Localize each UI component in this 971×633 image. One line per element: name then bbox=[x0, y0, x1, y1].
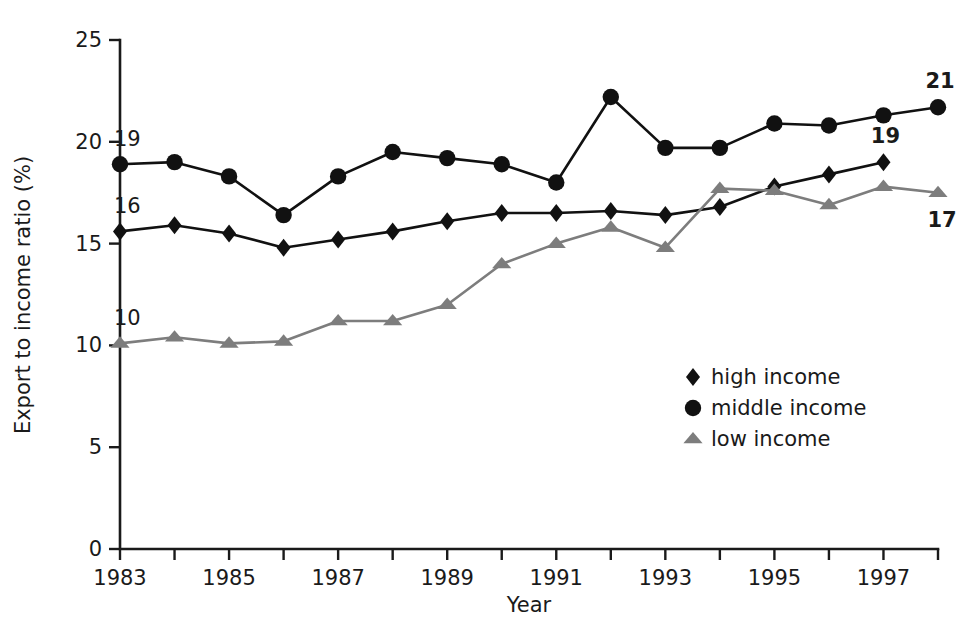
start-value-label-high-income: 16 bbox=[114, 194, 141, 218]
series-line-low-income bbox=[120, 187, 938, 344]
x-axis-title: Year bbox=[506, 593, 552, 617]
series-marker-middle-income bbox=[603, 89, 619, 105]
series-marker-low-income bbox=[710, 182, 729, 193]
x-axis-ticks: 19831985198719891991199319951997 bbox=[93, 549, 938, 590]
axis-frame bbox=[120, 40, 938, 549]
legend-marker-low-income bbox=[683, 432, 702, 443]
y-axis-title: Export to income ratio (%) bbox=[11, 156, 35, 434]
series-marker-high-income bbox=[331, 231, 345, 249]
series-marker-middle-income bbox=[275, 207, 291, 223]
y-tick-label: 5 bbox=[89, 435, 102, 459]
end-value-label-middle-income: 21 bbox=[925, 69, 954, 93]
y-tick-label: 15 bbox=[75, 232, 102, 256]
series-marker-high-income bbox=[604, 202, 618, 220]
x-tick-label: 1993 bbox=[639, 566, 692, 590]
series-marker-high-income bbox=[549, 204, 563, 222]
series-marker-high-income bbox=[495, 204, 509, 222]
series-marker-middle-income bbox=[166, 154, 182, 170]
y-axis-ticks: 0510152025 bbox=[75, 28, 120, 561]
chart-axes bbox=[120, 40, 938, 549]
series-marker-middle-income bbox=[930, 99, 946, 115]
series-marker-middle-income bbox=[439, 150, 455, 166]
series-marker-low-income bbox=[874, 180, 893, 191]
series-marker-middle-income bbox=[712, 140, 728, 156]
chart-container: 0510152025 19831985198719891991199319951… bbox=[0, 0, 971, 633]
y-tick-label: 25 bbox=[75, 28, 102, 52]
y-tick-label: 0 bbox=[89, 537, 102, 561]
start-value-label-middle-income: 19 bbox=[114, 127, 141, 151]
series-marker-high-income bbox=[168, 216, 182, 234]
series-marker-low-income bbox=[601, 220, 620, 231]
line-chart-plot: 0510152025 19831985198719891991199319951… bbox=[0, 0, 971, 633]
series-marker-high-income bbox=[386, 222, 400, 240]
x-tick-label: 1991 bbox=[530, 566, 583, 590]
start-value-label-low-income: 10 bbox=[114, 306, 141, 330]
x-tick-label: 1987 bbox=[311, 566, 364, 590]
x-tick-label: 1983 bbox=[93, 566, 146, 590]
series-marker-middle-income bbox=[112, 156, 128, 172]
series-marker-high-income bbox=[822, 165, 836, 183]
series-marker-high-income bbox=[113, 222, 127, 240]
series-marker-high-income bbox=[713, 198, 727, 216]
series-marker-high-income bbox=[222, 224, 236, 242]
legend-label-low-income: low income bbox=[711, 427, 830, 451]
series-marker-middle-income bbox=[766, 115, 782, 131]
chart-legend: high incomemiddle incomelow income bbox=[683, 365, 866, 451]
series-marker-high-income bbox=[876, 153, 890, 171]
series-marker-high-income bbox=[440, 212, 454, 230]
x-tick-label: 1995 bbox=[748, 566, 801, 590]
x-tick-label: 1997 bbox=[857, 566, 910, 590]
end-value-label-low-income: 17 bbox=[927, 208, 956, 232]
series-marker-middle-income bbox=[657, 140, 673, 156]
series-marker-middle-income bbox=[221, 168, 237, 184]
series-marker-middle-income bbox=[494, 156, 510, 172]
series-marker-low-income bbox=[329, 314, 348, 325]
series-marker-middle-income bbox=[548, 174, 564, 190]
y-tick-label: 20 bbox=[75, 130, 102, 154]
series-marker-middle-income bbox=[384, 144, 400, 160]
y-tick-label: 10 bbox=[75, 333, 102, 357]
end-value-label-high-income: 19 bbox=[871, 124, 900, 148]
series-marker-high-income bbox=[658, 206, 672, 224]
series-line-middle-income bbox=[120, 97, 938, 215]
series-marker-high-income bbox=[277, 239, 291, 257]
series-marker-middle-income bbox=[821, 117, 837, 133]
legend-marker-high-income bbox=[686, 368, 700, 386]
data-series-group bbox=[110, 89, 947, 348]
legend-marker-middle-income bbox=[685, 400, 701, 416]
x-tick-label: 1985 bbox=[202, 566, 255, 590]
legend-label-high-income: high income bbox=[711, 365, 840, 389]
x-tick-label: 1989 bbox=[420, 566, 473, 590]
series-marker-low-income bbox=[165, 330, 184, 341]
series-marker-middle-income bbox=[330, 168, 346, 184]
legend-label-middle-income: middle income bbox=[711, 396, 866, 420]
series-marker-middle-income bbox=[875, 107, 891, 123]
